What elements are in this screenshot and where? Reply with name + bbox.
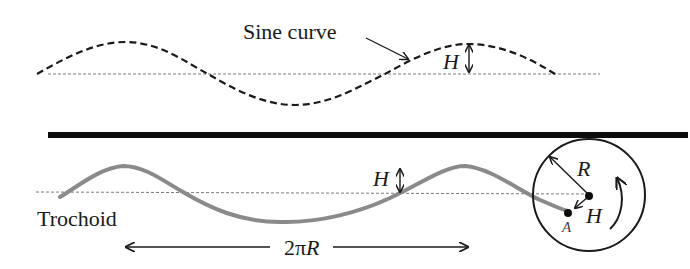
diagram-canvas: Sine curve H Trochoid H 2πR R H A (0, 0, 690, 269)
trochoid-baseline (36, 192, 590, 194)
sine-curve-label: Sine curve (243, 19, 336, 44)
wavelength-label-var: R (305, 235, 320, 260)
wavelength-label: 2πR (284, 235, 320, 260)
trochoid-height-label: H (372, 166, 390, 191)
point-a-dot (564, 209, 572, 217)
radius-label: R (576, 156, 591, 181)
point-a-label: A (561, 219, 572, 235)
sine-height-label: H (442, 49, 460, 74)
offset-label: H (585, 203, 603, 228)
trochoid-label: Trochoid (37, 206, 117, 231)
wavelength-label-prefix: 2π (284, 235, 306, 260)
rotation-arrow (610, 178, 622, 229)
surface-bar (48, 132, 688, 138)
sine-curve-pointer-arrow (366, 38, 408, 59)
